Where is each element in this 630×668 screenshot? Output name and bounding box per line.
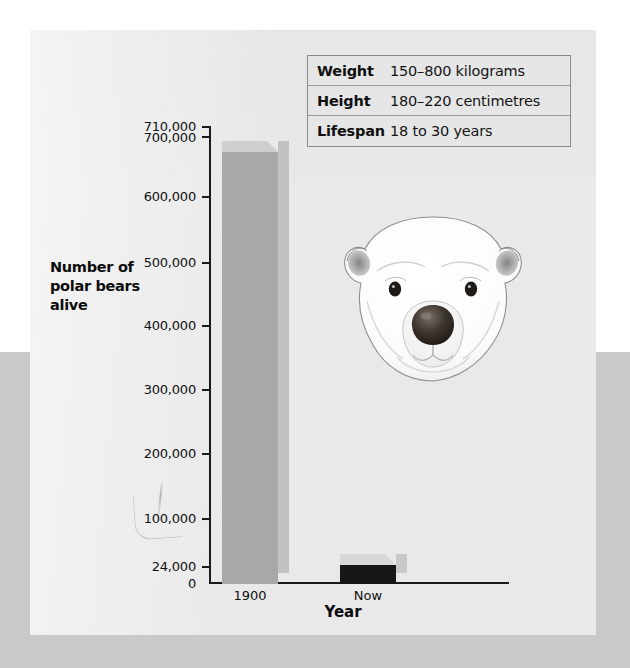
y-tick-mark-200000	[202, 453, 210, 455]
scan-margin-right	[596, 352, 630, 668]
bar-now-side-face	[396, 554, 407, 573]
bar-now-top-face	[340, 554, 396, 565]
bar-now[interactable]	[340, 565, 396, 584]
bear-nose	[412, 305, 454, 345]
y-tick-label-0: 0	[76, 576, 196, 591]
y-tick-mark-24000	[202, 566, 210, 568]
bar-1900-side-face	[278, 141, 289, 573]
y-tick-mark-700000	[202, 136, 210, 138]
y-tick-mark-400000	[202, 325, 210, 327]
y-tick-mark-300000	[202, 389, 210, 391]
y-tick-mark-600000	[202, 196, 210, 198]
bar-1900-front-face	[222, 152, 278, 584]
y-tick-mark-500000	[202, 262, 210, 264]
x-tick-label-1900: 1900	[210, 588, 290, 603]
y-tick-label-200000: 200,000	[76, 446, 196, 461]
y-axis-line	[209, 126, 211, 584]
y-tick-label-600000: 600,000	[76, 189, 196, 204]
bear-eye-right	[465, 282, 477, 297]
scan-margin-right-top	[596, 0, 630, 352]
polar-bear-head-illustration	[333, 205, 533, 395]
bar-now-front-face	[340, 565, 396, 584]
scan-margin-bottom	[0, 635, 630, 668]
y-tick-label-24000: 24,000	[76, 559, 196, 574]
chart-panel: Weight 150–800 kilograms Height 180–220 …	[30, 30, 596, 635]
bear-eye-left	[389, 282, 401, 297]
y-tick-label-100000: 100,000	[76, 511, 196, 526]
y-tick-label-700000: 700,000	[76, 130, 196, 145]
y-tick-label-500000: 500,000	[76, 255, 196, 270]
scanned-page-background: Weight 150–800 kilograms Height 180–220 …	[0, 0, 630, 668]
bar-1900[interactable]	[222, 152, 278, 584]
x-tick-label-now: Now	[328, 588, 408, 603]
y-tick-label-400000: 400,000	[76, 318, 196, 333]
y-tick-mark-710000	[202, 126, 210, 128]
scan-margin-left	[0, 352, 30, 668]
y-tick-mark-100000	[202, 518, 210, 520]
x-axis-title: Year	[30, 603, 596, 621]
bar-1900-top-face	[222, 141, 278, 152]
y-tick-label-300000: 300,000	[76, 382, 196, 397]
